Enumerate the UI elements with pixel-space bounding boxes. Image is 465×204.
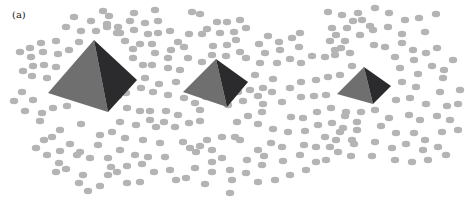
dot [16, 49, 24, 55]
dot [107, 164, 115, 170]
dot [275, 39, 283, 45]
dot [242, 55, 250, 61]
dot [18, 89, 26, 95]
dot [433, 113, 441, 119]
dot [146, 117, 154, 123]
dot [62, 24, 70, 30]
dot [324, 74, 332, 80]
dot [121, 135, 129, 141]
dot [154, 18, 162, 24]
dot [136, 179, 144, 185]
dot [408, 159, 416, 165]
dot [284, 129, 292, 135]
dot [391, 54, 399, 60]
dot [381, 44, 389, 50]
dot [236, 17, 244, 23]
dot [297, 60, 305, 66]
dot [188, 9, 196, 15]
dot [75, 180, 83, 186]
dot [415, 15, 423, 21]
dot [223, 19, 231, 25]
dot [410, 130, 418, 136]
dot [203, 137, 211, 143]
dot [151, 7, 159, 13]
dot [392, 130, 400, 136]
dot [43, 75, 51, 81]
dot [414, 71, 422, 77]
dot [36, 118, 44, 124]
dot [446, 117, 454, 123]
dot [328, 25, 336, 31]
dot [226, 167, 234, 173]
dot [198, 59, 206, 65]
dot [370, 42, 378, 48]
dot [162, 108, 170, 114]
dot [150, 169, 158, 175]
dot [148, 62, 156, 68]
dot [87, 18, 95, 24]
dot [174, 39, 182, 45]
dot [254, 121, 262, 127]
dot [439, 75, 447, 81]
dot [130, 27, 138, 33]
dot [267, 140, 275, 146]
dot [299, 115, 307, 121]
dot [297, 94, 305, 100]
dot [332, 137, 340, 143]
dot [196, 11, 204, 17]
dot [312, 159, 320, 165]
dot [113, 169, 121, 175]
dot [286, 172, 294, 178]
dot [428, 63, 436, 69]
dot [96, 183, 104, 189]
dot [37, 40, 45, 46]
dot [314, 122, 322, 128]
dot [391, 157, 399, 163]
dot [52, 169, 60, 175]
dot [116, 119, 124, 125]
dot [196, 107, 204, 113]
dot [226, 190, 234, 196]
dot [123, 180, 131, 186]
dot [405, 112, 413, 118]
dot [54, 51, 62, 57]
dot [342, 109, 350, 115]
dot [10, 98, 18, 104]
dot [296, 152, 304, 158]
dot [295, 44, 303, 50]
dot [324, 9, 332, 15]
dot [141, 75, 149, 81]
dot [258, 162, 266, 168]
dot [259, 85, 267, 91]
dot [261, 50, 269, 56]
dot [152, 124, 160, 130]
dot [86, 155, 94, 161]
dot [191, 165, 199, 171]
dot [338, 12, 346, 18]
dot [79, 172, 87, 178]
dot [401, 17, 409, 23]
dot [243, 157, 251, 163]
dot [63, 103, 71, 109]
dot [419, 147, 427, 153]
dot [166, 28, 174, 34]
dot [139, 62, 147, 68]
dot [138, 161, 146, 167]
pyramid-large [48, 40, 137, 112]
dot [255, 41, 263, 47]
dot [436, 89, 444, 95]
dot [310, 93, 318, 99]
dot [228, 177, 236, 183]
dot [327, 105, 335, 111]
dot [164, 55, 172, 61]
dot [126, 18, 134, 24]
dot [456, 87, 464, 93]
dot [392, 97, 400, 103]
dot [254, 179, 262, 185]
dot [208, 169, 216, 175]
dot [136, 108, 144, 114]
dot [301, 128, 309, 134]
dot [38, 110, 46, 116]
dot [19, 68, 27, 74]
dot [66, 141, 74, 147]
